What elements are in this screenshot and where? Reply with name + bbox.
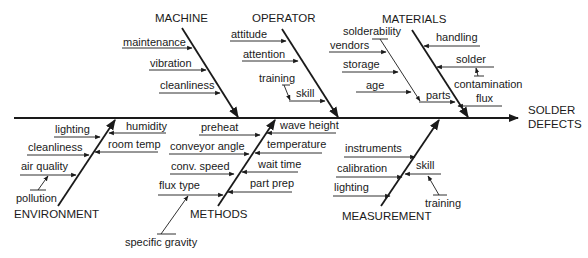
cause-label: handling: [436, 31, 478, 43]
sub-cause-arrow: [161, 196, 188, 234]
sub-cause-label: solderability: [343, 25, 402, 37]
sub-cause-arrow: [476, 68, 478, 76]
category-operator: OPERATOR attitude attention training ski…: [230, 12, 338, 117]
cause-label: instruments: [345, 142, 402, 154]
category-label-measurement: MEASUREMENT: [342, 210, 431, 222]
cause-label: conveyor angle: [170, 140, 245, 152]
category-machine: MACHINE maintenance vibration cleanlines…: [122, 12, 238, 117]
category-label-machine: MACHINE: [155, 12, 208, 24]
category-label-materials: MATERIALS: [382, 13, 447, 25]
cause-label: skill: [416, 159, 434, 171]
cause-label: preheat: [201, 121, 238, 133]
sub-cause-label: vendors: [330, 39, 370, 51]
category-label-methods: METHODS: [190, 208, 248, 220]
cause-label: cleanliness: [28, 141, 83, 153]
sub-cause-arrow: [284, 85, 290, 100]
cause-label: air quality: [21, 160, 69, 172]
bone-materials: [412, 30, 468, 117]
sub-cause-label: specific gravity: [125, 236, 198, 248]
cause-label: skill: [296, 87, 314, 99]
category-measurement: MEASUREMENT instruments calibration ligh…: [333, 120, 461, 222]
sub-cause-label: storage: [343, 58, 380, 70]
sub-cause-arrow: [38, 176, 48, 190]
sub-cause-label: age: [366, 79, 384, 91]
sub-cause-label: pollution: [16, 192, 57, 204]
cause-label: cleanliness: [160, 79, 215, 91]
bone-machine: [182, 28, 238, 117]
category-environment: ENVIRONMENT lighting cleanliness air qua…: [14, 120, 167, 220]
cause-label: conv. speed: [171, 160, 230, 172]
category-label-environment: ENVIRONMENT: [14, 208, 99, 220]
sub-cause-label: contamination: [454, 78, 523, 90]
cause-label: calibration: [337, 162, 387, 174]
cause-label: room temp: [108, 138, 161, 150]
cause-label: lighting: [334, 181, 369, 193]
sub-cause-arrow: [428, 176, 439, 195]
cause-label: humidity: [126, 120, 167, 132]
category-materials: MATERIALS handling solder contamination …: [329, 13, 523, 117]
cause-label: flux: [476, 92, 494, 104]
effect: SOLDER DEFECTS: [528, 104, 582, 130]
cause-label: attitude: [231, 28, 267, 40]
effect-label-line1: SOLDER: [528, 104, 575, 116]
cause-label: flux type: [159, 179, 200, 191]
cause-label: wave height: [279, 119, 339, 131]
cause-label: attention: [243, 48, 285, 60]
cause-label: part prep: [250, 177, 294, 189]
fishbone-diagram: SOLDER DEFECTS MACHINE maintenance vibra…: [0, 0, 588, 258]
cause-label: wait time: [257, 158, 301, 170]
cause-label: lighting: [55, 123, 90, 135]
sub-cause-label: training: [259, 72, 295, 84]
cause-label: parts: [426, 89, 451, 101]
cause-label: maintenance: [123, 36, 186, 48]
effect-label-line2: DEFECTS: [528, 118, 582, 130]
sub-cause-label: training: [425, 197, 461, 209]
category-label-operator: OPERATOR: [252, 12, 315, 24]
cause-label: vibration: [150, 57, 192, 69]
cause-label: temperature: [267, 138, 326, 150]
cause-label: solder: [456, 53, 486, 65]
